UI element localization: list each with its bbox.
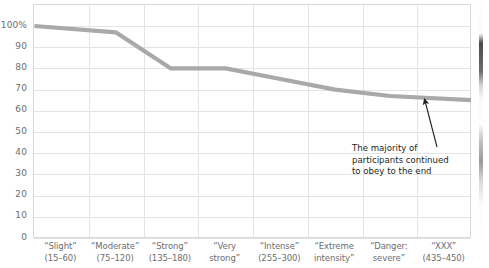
annotation-line-3: to obey to the end	[352, 166, 460, 178]
x-axis-category-0-line1: “Slight”	[33, 241, 88, 253]
x-axis-category-4-line2: (255–300)	[252, 253, 307, 265]
y-axis-tick-10: 10	[0, 211, 31, 220]
x-axis-category-7-line1: “XXX”	[416, 241, 471, 253]
x-axis-category-4-line1: “Intense”	[252, 241, 307, 253]
y-axis: 100%9080706050403020100	[0, 0, 31, 268]
plot-area	[33, 4, 471, 238]
y-axis-tick-30: 30	[0, 169, 31, 178]
y-axis-tick-70: 70	[0, 84, 31, 93]
x-axis-category-3: “Verystrong”	[197, 241, 252, 268]
x-axis-category-3-line1: “Very	[197, 241, 252, 253]
y-axis-tick-80: 80	[0, 63, 31, 72]
chart-canvas: 100%9080706050403020100 “Slight”(15–60)“…	[0, 0, 489, 268]
annotation-line-2: participants continued	[352, 155, 460, 167]
y-axis-tick-90: 90	[0, 42, 31, 51]
y-axis-tick-50: 50	[0, 127, 31, 136]
y-axis-tick-100: 100%	[0, 21, 31, 30]
x-axis-category-6-line1: “Danger:	[362, 241, 417, 253]
x-axis-category-2-line1: “Strong”	[143, 241, 198, 253]
x-axis-category-1-line2: (75–120)	[88, 253, 143, 265]
x-axis-category-5-line1: “Extreme	[307, 241, 362, 253]
x-axis-category-1: “Moderate”(75–120)	[88, 241, 143, 268]
page-edge-strip	[479, 0, 483, 238]
x-axis-category-7-line2: (435–450)	[416, 253, 471, 265]
x-axis-category-1-line1: “Moderate”	[88, 241, 143, 253]
x-axis-category-0-line2: (15–60)	[33, 253, 88, 265]
x-axis-category-4: “Intense”(255–300)	[252, 241, 307, 268]
y-axis-tick-60: 60	[0, 105, 31, 114]
x-axis-category-6: “Danger:severe”	[362, 241, 417, 268]
y-axis-tick-20: 20	[0, 190, 31, 199]
y-axis-tick-40: 40	[0, 148, 31, 157]
x-axis-category-5: “Extremeintensity”	[307, 241, 362, 268]
x-axis-category-2-line2: (135–180)	[143, 253, 198, 265]
x-axis-category-6-line2: severe”	[362, 253, 417, 265]
x-axis: “Slight”(15–60)“Moderate”(75–120)“Strong…	[33, 241, 471, 268]
x-axis-category-3-line2: strong”	[197, 253, 252, 265]
page-edge-margin	[484, 0, 489, 268]
x-axis-category-7: “XXX”(435–450)	[416, 241, 471, 268]
y-axis-tick-0: 0	[0, 233, 31, 242]
series-line	[35, 26, 472, 100]
obedience-line-series	[34, 5, 472, 239]
annotation-arrow-icon	[420, 92, 460, 152]
x-axis-category-0: “Slight”(15–60)	[33, 241, 88, 268]
x-axis-category-5-line2: intensity”	[307, 253, 362, 265]
x-axis-category-2: “Strong”(135–180)	[143, 241, 198, 268]
